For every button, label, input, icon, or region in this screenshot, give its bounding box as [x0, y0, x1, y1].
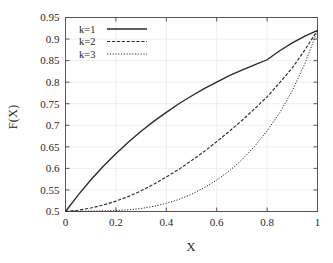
- y-tick-label: 0.7: [46, 119, 60, 131]
- x-tick-label: 1: [315, 216, 321, 228]
- x-tick-label: 0.4: [159, 216, 173, 228]
- x-axis-tick-labels: 00.20.40.60.81: [63, 216, 321, 228]
- y-tick-label: 0.9: [46, 33, 60, 45]
- data-curves: [66, 30, 318, 211]
- y-tick-label: 0.6: [46, 162, 60, 174]
- x-axis-title: X: [186, 240, 195, 254]
- y-tick-label: 0.5: [46, 205, 60, 217]
- legend-label-k-1: k=1: [79, 24, 95, 35]
- y-tick-label: 0.8: [46, 76, 60, 88]
- curve-k-1: [66, 30, 318, 211]
- plot-frame: [66, 18, 318, 212]
- curve-k-2: [66, 30, 318, 211]
- chart-legend: k=1k=2k=3: [79, 24, 147, 60]
- legend-label-k-3: k=3: [79, 49, 95, 60]
- legend-label-k-2: k=2: [79, 36, 95, 47]
- y-tick-label: 0.65: [40, 141, 60, 153]
- x-tick-label: 0: [63, 216, 69, 228]
- y-axis-tick-labels: 0.50.550.60.650.70.750.80.850.90.95: [40, 11, 60, 217]
- x-tick-label: 0.6: [210, 216, 224, 228]
- y-tick-label: 0.85: [40, 54, 60, 66]
- y-tick-label: 0.55: [40, 184, 60, 196]
- y-tick-label: 0.75: [40, 98, 60, 110]
- x-tick-label: 0.2: [109, 216, 123, 228]
- curve-k-3: [66, 30, 318, 211]
- gridlines: [66, 18, 318, 212]
- y-tick-label: 0.95: [40, 11, 60, 23]
- tick-marks: [66, 18, 318, 212]
- x-tick-label: 0.8: [260, 216, 274, 228]
- chart-svg: 0.50.550.60.650.70.750.80.850.90.95 00.2…: [0, 0, 333, 263]
- y-axis-title: F(X): [6, 105, 20, 129]
- chart-figure: 0.50.550.60.650.70.750.80.850.90.95 00.2…: [0, 0, 333, 263]
